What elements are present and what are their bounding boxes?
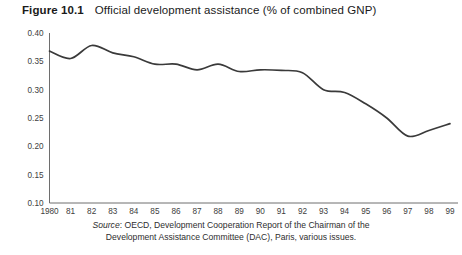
y-tick-label: 0.35	[28, 57, 44, 66]
x-tick-label: 97	[403, 207, 413, 216]
x-tick-label: 91	[277, 207, 287, 216]
x-tick-label: 92	[298, 207, 308, 216]
x-tick-label: 98	[424, 207, 434, 216]
source-line-2: Development Assistance Committee (DAC), …	[0, 231, 462, 243]
x-axis-tick-labels: 1980818283848586878889909192939495969798…	[40, 207, 455, 216]
y-tick-label: 0.25	[28, 114, 44, 123]
x-tick-label: 88	[214, 207, 224, 216]
x-tick-label: 82	[87, 207, 97, 216]
x-tick-label: 87	[192, 207, 202, 216]
source-line-1: Source: OECD, Development Cooperation Re…	[0, 219, 462, 231]
y-tick-label: 0.15	[28, 171, 44, 180]
y-tick-label: 0.20	[28, 142, 44, 151]
source-line-1-text: : OECD, Development Cooperation Report o…	[120, 220, 370, 230]
x-tick-label: 89	[235, 207, 245, 216]
x-tick-label: 84	[129, 207, 139, 216]
y-tick-label: 0.30	[28, 86, 44, 95]
chart-area: 0.400.350.300.250.200.150.10 19808182838…	[0, 0, 462, 216]
line-chart: 0.400.350.300.250.200.150.10 19808182838…	[0, 0, 462, 216]
x-tick-label: 1980	[40, 207, 59, 216]
x-tick-label: 93	[319, 207, 329, 216]
source-prefix: Source	[92, 220, 119, 230]
x-tick-label: 90	[256, 207, 266, 216]
y-tick-label: 0.40	[28, 29, 44, 38]
x-tick-label: 86	[171, 207, 181, 216]
x-tick-label: 83	[108, 207, 118, 216]
chart-axes	[50, 33, 459, 203]
x-tick-label: 94	[340, 207, 350, 216]
source-note: Source: OECD, Development Cooperation Re…	[0, 219, 462, 243]
y-axis-tick-labels: 0.400.350.300.250.200.150.10	[28, 29, 44, 208]
x-tick-label: 85	[150, 207, 160, 216]
data-series-line	[50, 45, 451, 136]
x-tick-label: 96	[382, 207, 392, 216]
x-tick-label: 95	[361, 207, 371, 216]
x-tick-label: 81	[66, 207, 76, 216]
x-tick-label: 99	[445, 207, 455, 216]
